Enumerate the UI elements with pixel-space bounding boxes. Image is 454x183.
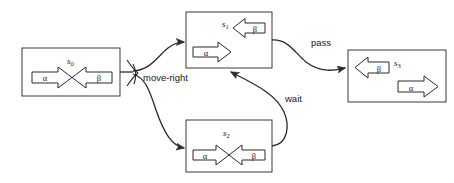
arrow-label-beta-s3: β [377, 64, 381, 74]
pass-path [272, 40, 345, 70]
arrow-label-beta-s2: β [252, 151, 256, 161]
arrow-label-beta-s0: β [97, 73, 101, 83]
edge-label-pass: pass [311, 37, 331, 48]
diagram-canvas: move-right pass wait s0 α β [0, 0, 454, 183]
arrow-label-alpha-s3: α [409, 83, 414, 93]
state-transition-diagram: move-right pass wait s0 α β [0, 0, 454, 183]
edge-label-move-right: move-right [143, 72, 188, 83]
edge-label-wait: wait [284, 93, 302, 104]
arrow-label-alpha-s2: α [203, 151, 208, 161]
move-right-branch-s2 [133, 74, 184, 148]
arrow-label-alpha-s0: α [43, 73, 48, 83]
arrow-label-alpha-s1: α [204, 48, 209, 58]
state-box-s2[interactable] [186, 120, 272, 172]
state-node-s0[interactable]: s0 α β [22, 48, 120, 96]
move-right-branch-s1 [133, 42, 184, 71]
state-box-s1[interactable] [186, 12, 272, 68]
arrow-label-beta-s1: β [253, 24, 257, 34]
state-node-s2[interactable]: s2 α β [186, 120, 272, 172]
edge-move-right: move-right [120, 42, 188, 148]
state-node-s1[interactable]: s1 β α [186, 12, 272, 68]
state-node-s3[interactable]: s3 β α [348, 50, 446, 102]
edge-pass: pass [272, 37, 345, 70]
